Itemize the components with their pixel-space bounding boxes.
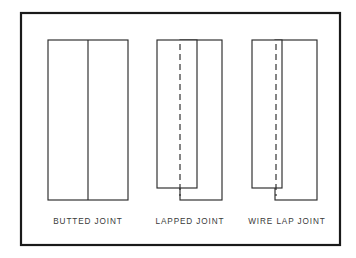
butted-joint-label: BUTTED JOINT — [53, 217, 122, 226]
wire-lap-joint-label: WIRE LAP JOINT — [248, 217, 326, 226]
panel-lapped-joint: LAPPED JOINT — [155, 40, 224, 226]
diagram-canvas: BUTTED JOINT LAPPED JOINT WIRE LAP JOINT — [0, 0, 356, 258]
joint-types-diagram: BUTTED JOINT LAPPED JOINT WIRE LAP JOINT — [0, 0, 356, 258]
panel-butted-joint: BUTTED JOINT — [48, 40, 128, 226]
lapped-joint-left-plate — [157, 40, 197, 188]
panel-wire-lap-joint: WIRE LAP JOINT — [248, 40, 326, 226]
wire-lap-joint-left-plate — [252, 40, 282, 188]
lapped-joint-label: LAPPED JOINT — [155, 217, 224, 226]
